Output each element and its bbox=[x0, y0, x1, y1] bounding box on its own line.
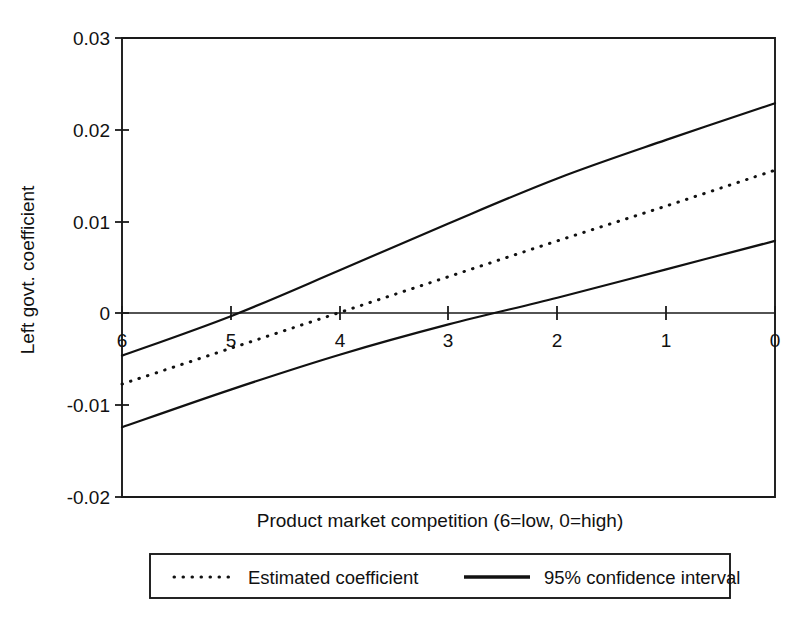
x-tick-label-0: 6 bbox=[117, 330, 128, 351]
y-tick-label-3: 0 bbox=[99, 303, 110, 324]
x-axis-title: Product market competition (6=low, 0=hig… bbox=[257, 510, 623, 531]
y-axis-tick-labels: 0.03 0.02 0.01 0 -0.01 -0.02 bbox=[67, 28, 110, 508]
y-tick-label-4: -0.01 bbox=[67, 395, 110, 416]
x-axis-tick-labels: 6 5 4 3 2 1 0 bbox=[117, 330, 781, 351]
chart-figure: 0.03 0.02 0.01 0 -0.01 -0.02 Left govt. … bbox=[0, 0, 801, 621]
x-tick-label-5: 1 bbox=[661, 330, 672, 351]
x-tick-label-3: 3 bbox=[443, 330, 454, 351]
x-tick-label-6: 0 bbox=[770, 330, 781, 351]
data-series-group bbox=[122, 103, 775, 427]
y-tick-label-2: 0.01 bbox=[73, 212, 110, 233]
y-tick-label-1: 0.02 bbox=[73, 120, 110, 141]
y-tick-label-0: 0.03 bbox=[73, 28, 110, 49]
y-tick-label-5: -0.02 bbox=[67, 487, 110, 508]
x-axis-title-text: Product market competition (6=low, 0=hig… bbox=[257, 510, 623, 531]
y-axis-title-text: Left govt. coefficient bbox=[17, 185, 38, 354]
legend-label-confidence-interval: 95% confidence interval bbox=[544, 567, 740, 588]
x-tick-label-2: 4 bbox=[335, 330, 346, 351]
x-tick-label-4: 2 bbox=[552, 330, 563, 351]
series-estimated-coefficient bbox=[122, 170, 775, 384]
legend-label-estimated-coefficient: Estimated coefficient bbox=[248, 567, 418, 588]
chart-legend: Estimated coefficient 95% confidence int… bbox=[150, 554, 740, 598]
y-axis-title: Left govt. coefficient bbox=[17, 185, 38, 354]
line-chart: 0.03 0.02 0.01 0 -0.01 -0.02 Left govt. … bbox=[0, 0, 801, 621]
